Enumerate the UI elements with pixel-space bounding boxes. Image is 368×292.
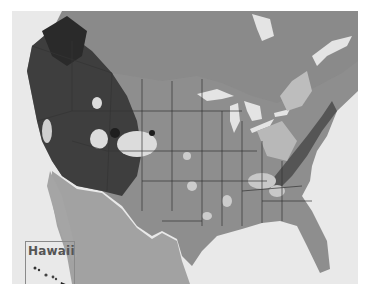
- highlight-region: [202, 212, 212, 220]
- dark-spot: [149, 130, 155, 136]
- highlight-region: [90, 129, 108, 149]
- highlight-region: [187, 181, 197, 191]
- highlight-region: [42, 119, 52, 143]
- hawaii-islands: [26, 242, 74, 284]
- dark-spot: [110, 128, 120, 138]
- highlight-region: [92, 97, 102, 109]
- highlight-region: [269, 185, 285, 197]
- highlight-region: [183, 152, 191, 160]
- us-map: Hawaii: [12, 11, 358, 284]
- hawaii-inset: Hawaii: [25, 241, 75, 284]
- highlight-region: [222, 195, 232, 207]
